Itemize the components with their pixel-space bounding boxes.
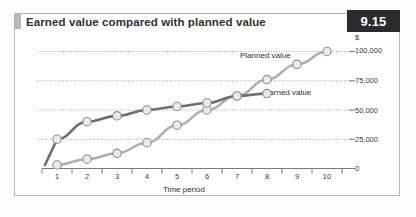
gridlines-group bbox=[37, 52, 352, 140]
data-point-marker[interactable] bbox=[53, 161, 61, 169]
series-line bbox=[57, 52, 327, 165]
data-point-marker[interactable] bbox=[293, 60, 301, 68]
data-point-marker[interactable] bbox=[53, 135, 61, 143]
figure-container: Earned value compared with planned value… bbox=[0, 0, 416, 217]
data-point-marker[interactable] bbox=[143, 106, 151, 114]
data-point-marker[interactable] bbox=[143, 139, 151, 147]
series-line bbox=[45, 94, 267, 165]
series-earned-value bbox=[45, 89, 271, 165]
chart-plot-area bbox=[0, 0, 416, 217]
data-point-marker[interactable] bbox=[113, 112, 121, 120]
data-point-marker[interactable] bbox=[113, 149, 121, 157]
series-planned-value bbox=[53, 47, 331, 169]
data-point-marker[interactable] bbox=[323, 47, 331, 55]
data-point-marker[interactable] bbox=[83, 118, 91, 126]
data-point-marker[interactable] bbox=[83, 155, 91, 163]
data-point-marker[interactable] bbox=[233, 92, 241, 100]
data-point-marker[interactable] bbox=[173, 121, 181, 129]
data-point-marker[interactable] bbox=[263, 89, 271, 97]
data-point-marker[interactable] bbox=[173, 102, 181, 110]
data-point-marker[interactable] bbox=[263, 75, 271, 83]
data-point-marker[interactable] bbox=[203, 99, 211, 107]
